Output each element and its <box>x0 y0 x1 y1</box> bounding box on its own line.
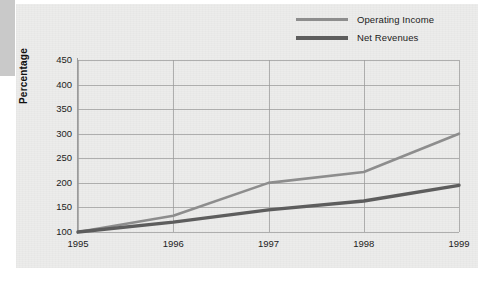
y-tick-400: 400 <box>38 79 72 90</box>
y-tick-150: 150 <box>38 201 72 212</box>
chart-legend: Operating Income Net Revenues <box>296 12 476 48</box>
y-tick-100: 100 <box>38 226 72 237</box>
x-axis-tick-labels: 1995 1996 1997 1998 1999 <box>78 238 459 254</box>
x-tick-1996: 1996 <box>153 238 193 249</box>
vgridline-1999 <box>459 60 460 232</box>
y-tick-350: 350 <box>38 103 72 114</box>
series-lines <box>78 60 459 232</box>
x-tick-1999: 1999 <box>439 238 479 249</box>
line-net-revenues <box>78 185 459 232</box>
legend-line-operating-income-icon <box>296 18 348 21</box>
legend-label-net-revenues: Net Revenues <box>357 32 418 43</box>
y-axis-tick-labels: 450 400 350 300 250 200 150 100 <box>38 60 72 232</box>
gridline-100-baseline <box>78 232 459 233</box>
plot-area <box>78 60 459 232</box>
line-operating-income <box>78 134 459 232</box>
x-tick-1997: 1997 <box>249 238 289 249</box>
x-tick-1995: 1995 <box>58 238 98 249</box>
x-tick-1998: 1998 <box>344 238 384 249</box>
legend-line-net-revenues-icon <box>296 36 348 40</box>
decorative-gray-block <box>0 0 15 76</box>
chart-screenshot: Operating Income Net Revenues Percentage… <box>0 0 498 287</box>
y-tick-250: 250 <box>38 152 72 163</box>
legend-label-operating-income: Operating Income <box>357 14 434 25</box>
y-tick-300: 300 <box>38 128 72 139</box>
y-tick-200: 200 <box>38 177 72 188</box>
legend-item-net-revenues: Net Revenues <box>296 30 476 45</box>
legend-item-operating-income: Operating Income <box>296 12 476 27</box>
y-axis-title: Percentage <box>18 48 29 104</box>
y-tick-450: 450 <box>38 54 72 65</box>
